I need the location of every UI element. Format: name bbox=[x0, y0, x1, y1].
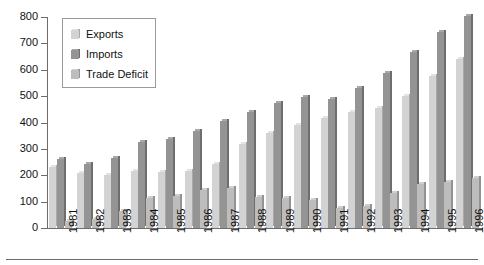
y-tick-200: 200 bbox=[41, 175, 48, 176]
bar-imports-1996[interactable] bbox=[464, 16, 471, 228]
y-tick-label: 0 bbox=[32, 221, 38, 234]
x-label-1991: 1991 bbox=[337, 219, 351, 233]
bar-imports-1992[interactable] bbox=[355, 88, 362, 228]
legend-label-trade-deficit: Trade Deficit bbox=[86, 68, 148, 81]
y-tick-800: 800 bbox=[41, 17, 48, 18]
y-tick-label: 600 bbox=[20, 63, 38, 76]
bar-group-1994 bbox=[402, 17, 424, 228]
x-label-1983: 1983 bbox=[120, 219, 134, 233]
bar-group-1993 bbox=[375, 17, 397, 228]
x-label-1995: 1995 bbox=[445, 219, 459, 233]
y-tick-700: 700 bbox=[41, 43, 48, 44]
bar-group-1992 bbox=[348, 17, 370, 228]
trade-deficit-swatch-icon bbox=[71, 69, 80, 79]
bar-group-1989 bbox=[266, 17, 288, 228]
bar-group-1988 bbox=[239, 17, 261, 228]
imports-swatch-icon bbox=[71, 49, 80, 59]
bar-group-1991 bbox=[321, 17, 343, 228]
bar-imports-1986[interactable] bbox=[193, 131, 200, 228]
legend-item-exports[interactable]: Exports bbox=[71, 27, 123, 41]
x-label-1993: 1993 bbox=[391, 219, 405, 233]
legend-item-trade-deficit[interactable]: Trade Deficit bbox=[71, 67, 148, 81]
bar-imports-1982[interactable] bbox=[84, 164, 91, 228]
y-tick-label: 300 bbox=[20, 142, 38, 155]
bar-imports-1988[interactable] bbox=[247, 112, 254, 228]
y-tick-label: 200 bbox=[20, 168, 38, 181]
y-tick-600: 600 bbox=[41, 70, 48, 71]
bar-imports-1984[interactable] bbox=[138, 142, 145, 229]
x-label-1992: 1992 bbox=[364, 219, 378, 233]
x-label-1990: 1990 bbox=[310, 219, 324, 233]
x-label-1987: 1987 bbox=[228, 219, 242, 233]
bar-imports-1987[interactable] bbox=[220, 121, 227, 228]
y-tick-label: 800 bbox=[20, 10, 38, 23]
bar-group-1985 bbox=[158, 17, 180, 228]
bar-imports-1983[interactable] bbox=[111, 158, 118, 228]
legend-label-exports: Exports bbox=[86, 28, 123, 41]
bar-imports-1981[interactable] bbox=[57, 159, 64, 228]
x-label-1985: 1985 bbox=[174, 219, 188, 233]
x-label-1982: 1982 bbox=[93, 219, 107, 233]
x-label-1989: 1989 bbox=[283, 219, 297, 233]
y-tick-100: 100 bbox=[41, 202, 48, 203]
bar-exports-1996[interactable] bbox=[456, 59, 463, 228]
y-tick-300: 300 bbox=[41, 149, 48, 150]
bar-imports-1994[interactable] bbox=[410, 52, 417, 228]
legend-label-imports: Imports bbox=[86, 48, 123, 61]
x-label-1984: 1984 bbox=[147, 219, 161, 233]
x-label-1996: 1996 bbox=[472, 219, 484, 233]
y-tick-label: 500 bbox=[20, 89, 38, 102]
bottom-divider bbox=[6, 259, 478, 260]
bar-imports-1989[interactable] bbox=[274, 103, 281, 228]
y-tick-400: 400 bbox=[41, 123, 48, 124]
bar-group-1986 bbox=[185, 17, 207, 228]
y-tick-label: 100 bbox=[20, 195, 38, 208]
bar-imports-1985[interactable] bbox=[166, 139, 173, 228]
x-label-1988: 1988 bbox=[255, 219, 269, 233]
x-label-1994: 1994 bbox=[418, 219, 432, 233]
chart-legend: Exports Imports Trade Deficit bbox=[62, 18, 156, 88]
bar-group-1990 bbox=[294, 17, 316, 228]
bar-group-1995 bbox=[429, 17, 451, 228]
x-label-1986: 1986 bbox=[201, 219, 215, 233]
bar-exports-1981[interactable] bbox=[49, 167, 56, 228]
y-tick-label: 400 bbox=[20, 116, 38, 129]
y-tick-0: 0 bbox=[41, 228, 48, 229]
bar-group-1996 bbox=[456, 17, 478, 228]
bar-imports-1995[interactable] bbox=[437, 32, 444, 228]
y-tick-label: 700 bbox=[20, 36, 38, 49]
exports-swatch-icon bbox=[71, 29, 80, 39]
bar-exports-1995[interactable] bbox=[429, 76, 436, 228]
bar-imports-1991[interactable] bbox=[328, 99, 335, 228]
x-label-1981: 1981 bbox=[66, 219, 80, 233]
bar-imports-1993[interactable] bbox=[383, 73, 390, 228]
bar-chart: 0100200300400500600700800 19811982198319… bbox=[0, 0, 484, 265]
bar-imports-1990[interactable] bbox=[301, 97, 308, 228]
legend-item-imports[interactable]: Imports bbox=[71, 47, 123, 61]
bar-group-1987 bbox=[212, 17, 234, 228]
y-tick-500: 500 bbox=[41, 96, 48, 97]
